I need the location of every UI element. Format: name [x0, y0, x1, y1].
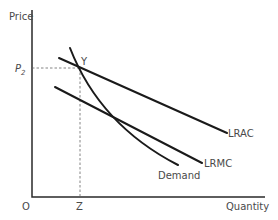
diagram-svg: Price Quantity O Z Y P2 LRAC LRMC Demand	[0, 0, 278, 220]
origin-label: O	[22, 201, 30, 212]
cost-curves-diagram: Price Quantity O Z Y P2 LRAC LRMC Demand	[0, 0, 278, 220]
lrac-curve	[59, 58, 227, 133]
quantity-z-label: Z	[76, 201, 83, 212]
lrmc-label: LRMC	[204, 158, 232, 169]
price-p2-label: P2	[15, 63, 26, 77]
x-axis-label: Quantity	[226, 201, 269, 212]
point-y-label: Y	[80, 56, 88, 67]
y-axis-label: Price	[9, 11, 33, 22]
demand-label: Demand	[158, 170, 200, 181]
lrmc-curve	[55, 87, 202, 163]
lrac-label: LRAC	[228, 128, 254, 139]
price-subscript: 2	[21, 69, 26, 77]
